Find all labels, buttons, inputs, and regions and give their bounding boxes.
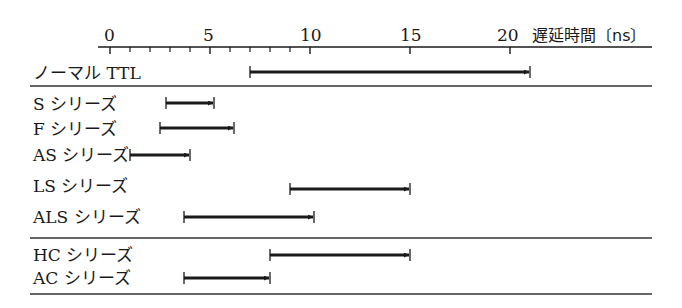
row-label-ac-series: AC シリーズ (32, 268, 131, 288)
range-bar (166, 97, 214, 109)
range-bars (130, 66, 530, 284)
row-label-s-series: S シリーズ (33, 94, 117, 114)
row-label-als-series: ALS シリーズ (32, 207, 141, 227)
range-bar (160, 122, 234, 134)
tick-label-0: 0 (104, 25, 115, 45)
row-label-ls-series: LS シリーズ (33, 176, 128, 196)
range-bar (270, 249, 410, 261)
tick-label-15: 15 (400, 25, 422, 45)
axis-title: 遅延時間〔ns〕 (532, 26, 646, 45)
range-bar (130, 149, 190, 161)
row-label-normal-ttl: ノーマル TTL (33, 63, 141, 83)
tick-label-5: 5 (203, 25, 214, 45)
range-bar (290, 183, 410, 195)
row-label-hc-series: HC シリーズ (33, 245, 133, 265)
range-bar (184, 211, 314, 223)
range-bar (184, 272, 270, 284)
x-axis: 0 5 10 15 20 遅延時間〔ns〕 (98, 25, 652, 54)
delay-time-chart: 0 5 10 15 20 遅延時間〔ns〕 ノーマル TTL S シリーズ F … (0, 0, 682, 308)
range-bar (250, 66, 530, 78)
row-label-f-series: F シリーズ (33, 119, 117, 139)
tick-label-20: 20 (497, 25, 519, 45)
row-label-as-series: AS シリーズ (32, 145, 129, 165)
tick-label-10: 10 (300, 25, 322, 45)
